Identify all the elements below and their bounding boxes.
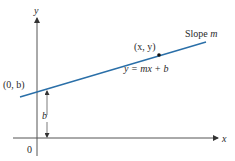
general-point-marker xyxy=(157,53,161,57)
equation-label: y = mx + b xyxy=(123,63,169,74)
intercept-distance-label: b xyxy=(42,110,47,121)
slope-intercept-diagram: y x 0 (0, b) b (x, y) y = mx + b Slope m xyxy=(0,0,235,161)
y-axis-label: y xyxy=(33,5,39,16)
intercept-point-label: (0, b) xyxy=(3,79,25,91)
slope-label-prefix: Slope xyxy=(185,28,210,39)
slope-label-var: m xyxy=(210,28,217,39)
line-y-mx-b xyxy=(20,42,206,97)
x-axis-label: x xyxy=(221,133,227,144)
slope-label: Slope m xyxy=(185,28,218,39)
origin-label: 0 xyxy=(27,144,32,155)
general-point-label: (x, y) xyxy=(134,41,156,53)
